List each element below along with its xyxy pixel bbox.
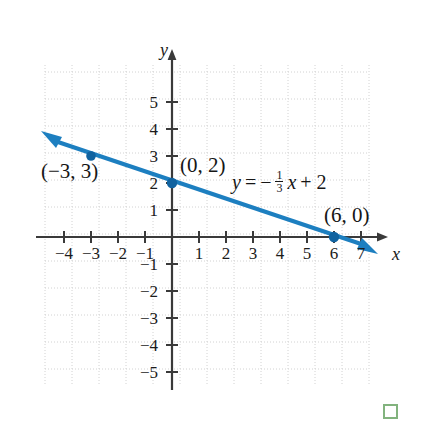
y-tick-label-neg2: −2 [128, 283, 158, 300]
x-tick-label-neg3: −3 [77, 245, 105, 262]
green-square-marker [383, 404, 398, 419]
equation-label: y = − 1 3 x + 2 [232, 170, 327, 195]
y-tick-label-4: 4 [136, 121, 158, 138]
equation-tail: + 2 [300, 171, 326, 194]
y-tick-label-2: 2 [136, 175, 158, 192]
grid-lines [45, 65, 369, 386]
x-axis-label: x [392, 245, 400, 263]
equation-fraction: 1 3 [275, 169, 283, 194]
y-tick-label-neg4: −4 [128, 337, 158, 354]
y-tick-label-5: 5 [136, 94, 158, 111]
x-tick-label-2: 2 [214, 245, 238, 262]
x-tick-label-neg4: −4 [50, 245, 78, 262]
equation-x: x [287, 171, 296, 194]
x-tick-label-6: 6 [322, 245, 346, 262]
point-label-0-2: (0, 2) [180, 155, 226, 176]
x-tick-label-4: 4 [268, 245, 292, 262]
y-tick-label-1: 1 [136, 202, 158, 219]
point-marker-6-0 [329, 232, 339, 242]
y-axis-label: y [160, 41, 168, 59]
graph-figure: y x −4 −3 −2 −1 1 2 3 4 5 6 7 5 4 3 2 1 … [0, 0, 424, 440]
point-marker-0-2 [167, 178, 177, 188]
y-axis [168, 49, 177, 390]
y-tick-label-neg1: −1 [128, 256, 158, 273]
x-tick-label-3: 3 [241, 245, 265, 262]
x-tick-label-1: 1 [187, 245, 211, 262]
equation-equals: = [245, 171, 256, 194]
y-tick-label-neg3: −3 [128, 310, 158, 327]
y-tick-label-3: 3 [136, 148, 158, 165]
point-label-neg3-3: (−3, 3) [41, 161, 98, 182]
equation-denominator: 3 [275, 181, 283, 194]
equation-y: y [232, 171, 241, 194]
equation-numerator: 1 [275, 169, 283, 181]
x-tick-label-5: 5 [295, 245, 319, 262]
y-tick-label-neg5: −5 [128, 364, 158, 381]
equation-minus: − [260, 171, 271, 194]
x-tick-label-7: 7 [349, 245, 373, 262]
point-label-6-0: (6, 0) [324, 205, 370, 226]
